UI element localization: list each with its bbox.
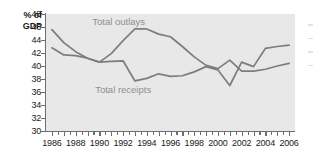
line-total-receipts: [52, 45, 289, 85]
chart-screenshot: % of GDP 48464442403836343230 1986198819…: [0, 0, 324, 154]
series-label-total-receipts: Total receipts: [95, 84, 151, 95]
series-lines: [0, 0, 324, 154]
line-total-outlays: [52, 29, 289, 71]
series-label-total-outlays: Total outlays: [92, 16, 145, 27]
cropped-edge-text: [308, 24, 318, 74]
